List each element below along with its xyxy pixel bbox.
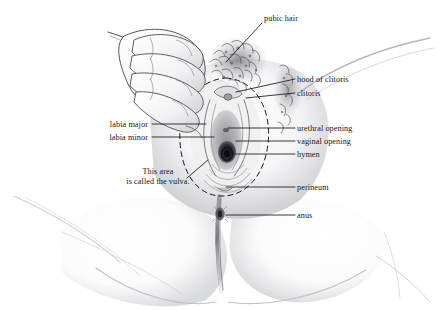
- anatomy-illustration: [0, 0, 436, 310]
- label-vaginal-opening: vaginal opening: [297, 137, 351, 147]
- label-perineum: perineum: [297, 183, 329, 193]
- label-clitoris: clitoris: [297, 89, 321, 99]
- illustration-canvas: pubic hair hood of clitoris clitoris lab…: [0, 0, 436, 310]
- label-labia-minor: labia minor: [48, 133, 148, 143]
- label-urethral-opening: urethral opening: [297, 124, 352, 134]
- label-hood-of-clitoris: hood of clitoris: [297, 75, 349, 85]
- label-hymen: hymen: [297, 150, 320, 160]
- annotation-vulva-line1: This area: [110, 167, 206, 177]
- annotation-vulva-line2: is called the vulva.: [110, 177, 206, 187]
- label-pubic-hair: pubic hair: [264, 14, 298, 24]
- annotation-vulva: This area is called the vulva.: [110, 167, 206, 186]
- label-labia-major: labia major: [48, 120, 148, 130]
- label-anus: anus: [297, 211, 312, 221]
